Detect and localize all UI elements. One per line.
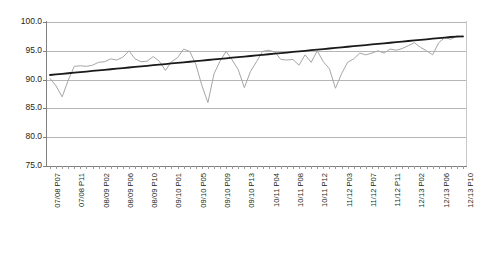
x-axis-tick-mark <box>457 166 458 169</box>
x-axis-tick-mark <box>129 166 130 169</box>
x-axis-tick-mark <box>329 166 330 169</box>
x-axis-tick-mark <box>159 166 160 169</box>
x-axis-tick-mark <box>257 166 258 169</box>
x-axis-tick-label: 10/11 P12 <box>321 173 329 207</box>
x-axis-tick-mark <box>117 166 118 169</box>
x-axis-tick-mark <box>208 166 209 169</box>
x-axis-tick-mark <box>433 166 434 169</box>
x-axis-tick-mark <box>342 166 343 169</box>
x-axis-tick-mark <box>287 166 288 169</box>
plot-area <box>47 22 466 166</box>
x-axis-tick-mark <box>378 166 379 169</box>
x-axis-tick-mark <box>93 166 94 169</box>
y-axis-tick-label: 90.0 <box>0 75 42 84</box>
x-axis-tick-mark <box>360 166 361 169</box>
x-axis-tick-mark <box>232 166 233 169</box>
x-axis-tick-mark <box>141 166 142 169</box>
x-axis-tick-label: 10/11 P08 <box>297 173 305 207</box>
x-axis-tick-mark <box>184 166 185 169</box>
x-axis-tick-mark <box>244 166 245 169</box>
x-axis-tick-mark <box>99 166 100 169</box>
x-axis-tick-mark <box>366 166 367 169</box>
x-axis-tick-label: 12/13 P02 <box>418 173 426 208</box>
x-axis-tick-mark <box>305 166 306 169</box>
x-axis-tick-mark <box>390 166 391 169</box>
x-axis-tick-label: 09/10 P13 <box>248 173 256 208</box>
x-axis-tick-mark <box>202 166 203 169</box>
y-axis-tick-label: 75.0 <box>0 161 42 170</box>
x-axis-tick-mark <box>408 166 409 169</box>
x-axis-tick-mark <box>335 166 336 169</box>
x-axis-tick-mark <box>171 166 172 169</box>
x-axis-tick-mark <box>445 166 446 169</box>
x-axis-tick-mark <box>323 166 324 169</box>
x-axis-tick-mark <box>451 166 452 169</box>
x-axis-tick-label: 09/10 P01 <box>175 173 183 208</box>
y-axis-tick-label: 100.0 <box>0 17 42 26</box>
x-axis-tick-mark <box>220 166 221 169</box>
x-axis-tick-label: 09/10 P09 <box>224 173 232 208</box>
x-axis-tick-mark <box>311 166 312 169</box>
x-axis-tick-mark <box>135 166 136 169</box>
x-axis-tick-mark <box>105 166 106 169</box>
x-axis-tick-mark <box>178 166 179 169</box>
x-axis-tick-mark <box>293 166 294 169</box>
x-axis-tick-label: 08/09 P02 <box>103 173 111 208</box>
x-axis-tick-mark <box>348 166 349 169</box>
x-axis-tick-mark <box>196 166 197 169</box>
x-axis-tick-mark <box>214 166 215 169</box>
x-axis-tick-mark <box>281 166 282 169</box>
x-axis-tick-mark <box>402 166 403 169</box>
x-axis-tick-mark <box>165 166 166 169</box>
x-axis-tick-mark <box>275 166 276 169</box>
x-axis-tick-mark <box>226 166 227 169</box>
y-axis-tick-label: 85.0 <box>0 103 42 112</box>
x-axis-tick-mark <box>190 166 191 169</box>
x-axis-tick-mark <box>463 166 464 169</box>
x-axis-tick-label: 12/13 P06 <box>443 173 451 208</box>
x-axis-tick-label: 08/09 P06 <box>127 173 135 208</box>
x-axis-tick-label: 12/13 P10 <box>467 173 475 208</box>
x-axis-tick-mark <box>354 166 355 169</box>
x-axis-tick-mark <box>427 166 428 169</box>
trend-line <box>50 36 463 75</box>
x-axis-tick-label: 07/08 P11 <box>78 173 86 207</box>
x-axis-tick-label: 08/09 P10 <box>151 173 159 208</box>
x-axis-tick-mark <box>123 166 124 169</box>
chart-container: 100.095.090.085.080.075.0 07/08 P0707/08… <box>0 0 493 256</box>
x-axis-tick-mark <box>68 166 69 169</box>
x-axis-tick-mark <box>153 166 154 169</box>
y-axis-tick-label: 80.0 <box>0 132 42 141</box>
x-axis-tick-mark <box>250 166 251 169</box>
x-axis-tick-mark <box>420 166 421 169</box>
x-axis-tick-mark <box>50 166 51 169</box>
plot-right-border <box>466 21 467 167</box>
x-axis-tick-mark <box>317 166 318 169</box>
x-axis-tick-mark <box>263 166 264 169</box>
x-axis-tick-mark <box>86 166 87 169</box>
x-axis-tick-mark <box>147 166 148 169</box>
x-axis-tick-mark <box>238 166 239 169</box>
x-axis-tick-mark <box>384 166 385 169</box>
x-axis-tick-mark <box>269 166 270 169</box>
x-axis-tick-label: 09/10 P05 <box>200 173 208 208</box>
x-axis-tick-mark <box>80 166 81 169</box>
x-axis-tick-mark <box>299 166 300 169</box>
x-axis-tick-mark <box>111 166 112 169</box>
x-axis-tick-label: 11/12 P03 <box>346 173 354 207</box>
x-axis-tick-label: 11/12 P07 <box>370 173 378 207</box>
x-axis-tick-mark <box>439 166 440 169</box>
y-axis-tick-label: 95.0 <box>0 46 42 55</box>
x-axis-tick-mark <box>396 166 397 169</box>
x-axis-tick-mark <box>74 166 75 169</box>
x-axis-tick-label: 11/12 P11 <box>394 173 402 207</box>
x-axis-tick-mark <box>56 166 57 169</box>
series-lines <box>47 22 466 166</box>
x-axis-tick-mark <box>414 166 415 169</box>
x-axis-tick-label: 10/11 P04 <box>273 173 281 207</box>
x-axis-tick-mark <box>372 166 373 169</box>
x-axis-tick-mark <box>62 166 63 169</box>
x-axis-tick-label: 07/08 P07 <box>54 173 62 208</box>
